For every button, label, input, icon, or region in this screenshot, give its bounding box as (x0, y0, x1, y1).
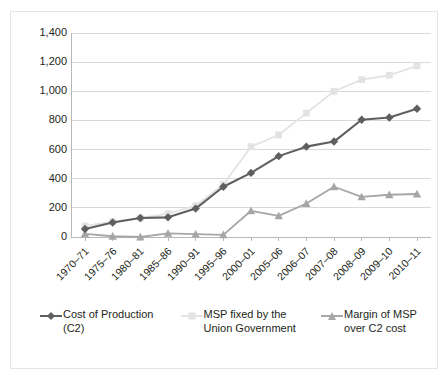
legend-item-msp-fixed: MSP fixed by the Union Government (180, 308, 305, 335)
data-point-marker (331, 88, 338, 95)
chart-legend: Cost of Production (C2) MSP fixed by the… (39, 308, 435, 335)
legend-label-msp-fixed: MSP fixed by the Union Government (204, 308, 305, 335)
data-point-marker (414, 62, 421, 69)
y-tick-label: 800 (15, 114, 67, 125)
y-tick-label: 1,200 (15, 56, 67, 67)
y-tick-label: 400 (15, 173, 67, 184)
chart-container: 1,4001,2001,0008006004002000 1970–711975… (10, 11, 438, 369)
legend-label-margin-of-msp: Margin of MSP over C2 cost (344, 308, 435, 335)
series-3 (81, 183, 421, 241)
y-tick-label: 1,000 (15, 85, 67, 96)
triangle-marker-icon (320, 309, 344, 323)
data-point-marker (386, 72, 393, 79)
data-point-marker (248, 143, 255, 150)
y-axis: 1,4001,2001,0008006004002000 (11, 12, 67, 292)
legend-label-cost-of-production: Cost of Production (C2) (63, 308, 164, 335)
diamond-marker-icon (39, 309, 63, 323)
y-tick-label: 1,400 (15, 27, 67, 38)
x-axis: 1970–711975–761980–811985–861990–911995–… (71, 238, 439, 308)
legend-item-cost-of-production: Cost of Production (C2) (39, 308, 164, 335)
data-point-marker (413, 105, 421, 113)
legend-item-margin-of-msp: Margin of MSP over C2 cost (320, 308, 435, 335)
y-tick-label: 0 (15, 231, 67, 242)
y-tick-label: 200 (15, 202, 67, 213)
data-point-marker (330, 183, 338, 191)
square-marker-icon (180, 309, 204, 323)
y-tick-label: 600 (15, 144, 67, 155)
data-point-marker (275, 132, 282, 139)
data-point-marker (358, 76, 365, 83)
data-point-marker (303, 110, 310, 117)
data-point-marker (302, 199, 310, 207)
series-2 (82, 62, 421, 229)
